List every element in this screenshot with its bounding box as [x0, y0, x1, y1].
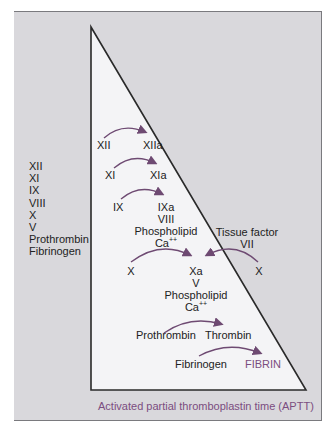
calcium-label: Ca	[185, 301, 199, 313]
factor-item: Prothrombin	[29, 233, 89, 245]
thrombin-label: Thrombin	[205, 329, 251, 341]
cofactor-calcium-2: Ca++	[185, 301, 207, 313]
extrinsic-factor-x: X	[255, 265, 262, 277]
factor-x: X	[127, 265, 134, 277]
factor-item: X	[29, 209, 89, 221]
factor-xa: Xa	[189, 265, 202, 277]
factor-item: Fibrinogen	[29, 245, 89, 257]
fibrinogen-label: Fibrinogen	[175, 358, 227, 370]
cofactor-v: V	[192, 277, 199, 289]
calcium-label: Ca	[155, 237, 169, 249]
factor-item: VIII	[29, 197, 89, 209]
prothrombin-label: Prothrombin	[136, 329, 196, 341]
cofactor-phospholipid: Phospholipid	[135, 225, 198, 237]
factor-xiia: XIIa	[143, 139, 163, 151]
fibrin-label: FIBRIN	[245, 358, 281, 370]
tissue-factor-label: Tissue factor	[216, 226, 279, 238]
factor-item: V	[29, 221, 89, 233]
calcium-charge: ++	[169, 236, 177, 243]
factor-vii: VII	[240, 238, 253, 250]
figure-caption: Activated partial thromboplastin time (A…	[98, 400, 314, 412]
cofactor-calcium: Ca++	[155, 237, 177, 249]
cofactor-viii: VIII	[158, 213, 175, 225]
factor-item: XII	[29, 160, 89, 172]
calcium-charge: ++	[199, 300, 207, 307]
factor-xi: XI	[105, 169, 115, 181]
factors-tested-list: XII XI IX VIII X V Prothrombin Fibrinoge…	[29, 160, 89, 258]
cofactor-phospholipid-2: Phospholipid	[165, 289, 228, 301]
factor-item: IX	[29, 184, 89, 196]
factor-item: XI	[29, 172, 89, 184]
factor-xii: XII	[97, 139, 110, 151]
factor-ix: IX	[113, 201, 123, 213]
factor-xia: XIa	[150, 169, 167, 181]
factor-ixa: IXa	[158, 201, 175, 213]
